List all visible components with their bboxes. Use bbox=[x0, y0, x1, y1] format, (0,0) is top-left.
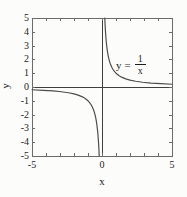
annotation-equals: = bbox=[125, 59, 131, 71]
x-tick-label: -5 bbox=[22, 158, 42, 172]
x-tick-label: 5 bbox=[162, 158, 182, 172]
annotation-numerator: 1 bbox=[135, 53, 146, 64]
y-tick-label: -3 bbox=[6, 121, 29, 135]
y-tick-label: -2 bbox=[6, 108, 29, 122]
y-tick-label: -1 bbox=[6, 94, 29, 108]
y-tick-label: 4 bbox=[6, 25, 29, 39]
y-tick-label: 1 bbox=[6, 66, 29, 80]
y-tick-label: 2 bbox=[6, 52, 29, 66]
figure-plot-y-equals-1-over-x: y x y = 1 x 543210-1-2-3-4-5-505 bbox=[0, 0, 187, 197]
y-tick-label: 3 bbox=[6, 39, 29, 53]
annotation-lhs: y bbox=[116, 59, 122, 71]
x-tick-label: 0 bbox=[92, 158, 112, 172]
annotation-fraction: 1 x bbox=[135, 53, 146, 76]
curve-negative-branch bbox=[32, 90, 99, 156]
annotation-denominator: x bbox=[135, 64, 146, 76]
y-tick-label: -4 bbox=[6, 135, 29, 149]
curve-annotation: y = 1 x bbox=[116, 53, 146, 76]
y-tick-label: 0 bbox=[6, 80, 29, 94]
x-axis-label: x bbox=[92, 175, 112, 187]
y-tick-label: 5 bbox=[6, 11, 29, 25]
